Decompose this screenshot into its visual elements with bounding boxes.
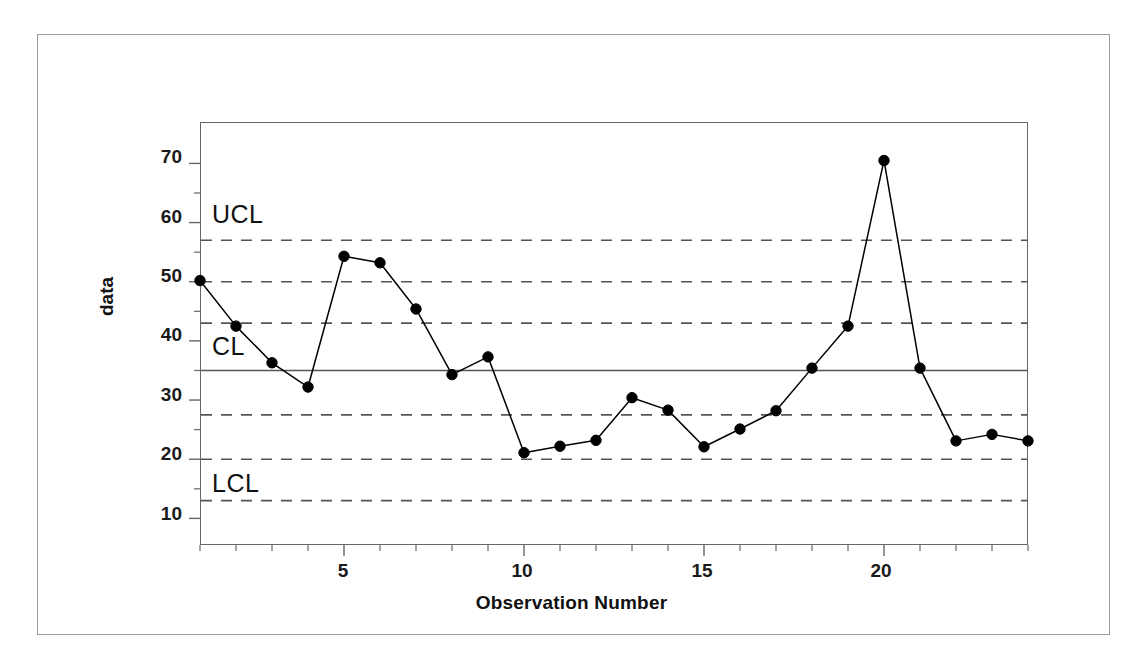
y-tick-label-10: 10 <box>140 504 182 523</box>
plot-frame <box>200 122 1028 545</box>
x-tick-label-15: 15 <box>680 561 724 580</box>
x-tick-label-10: 10 <box>500 561 544 580</box>
chart-page: 70 60 50 40 30 20 10 5 10 15 20 Observat… <box>0 0 1143 669</box>
y-tick-label-40: 40 <box>140 325 182 344</box>
x-axis-title: Observation Number <box>0 592 1143 614</box>
lcl-label: LCL <box>212 471 259 496</box>
y-axis-title: data <box>96 277 118 316</box>
y-tick-label-50: 50 <box>140 266 182 285</box>
y-tick-label-70: 70 <box>140 147 182 166</box>
x-tick-label-20: 20 <box>859 561 903 580</box>
x-tick-label-5: 5 <box>321 561 365 580</box>
y-tick-label-60: 60 <box>140 207 182 226</box>
cl-label: CL <box>212 334 245 359</box>
y-tick-label-30: 30 <box>140 385 182 404</box>
ucl-label: UCL <box>212 202 264 227</box>
y-tick-label-20: 20 <box>140 444 182 463</box>
